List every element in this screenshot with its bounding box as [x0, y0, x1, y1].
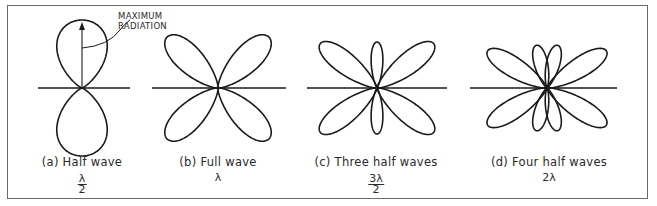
pattern-four-half-waves: [470, 45, 617, 131]
radiation-lobe: [165, 88, 218, 141]
radiation-lobe: [487, 88, 547, 128]
radiation-patterns-diagram: [0, 0, 657, 206]
radiation-lobe: [487, 48, 547, 88]
pattern-full-wave: [152, 35, 286, 142]
arrow-head-icon: [79, 22, 85, 30]
radiation-lobe: [377, 41, 435, 88]
fraction-denominator: 2: [372, 185, 379, 195]
wavelength-full-wave: λ: [215, 171, 222, 184]
radiation-lobe: [218, 35, 271, 88]
pattern-three-half-waves: [307, 41, 447, 134]
radiation-lobe: [371, 88, 383, 134]
radiation-lobe: [319, 41, 377, 88]
radiation-lobe: [165, 35, 218, 88]
radiation-lobe: [547, 48, 607, 88]
radiation-lobe: [371, 42, 383, 88]
radiation-lobe: [377, 88, 435, 135]
radiation-lobe: [319, 88, 377, 135]
pattern-half-wave: [38, 20, 130, 156]
radiation-lobe: [57, 88, 107, 156]
caption-half-wave: (a) Half wave: [42, 155, 123, 169]
caption-full-wave: (b) Full wave: [179, 155, 256, 169]
radiation-lobe: [218, 88, 271, 141]
fraction-denominator: 2: [78, 185, 85, 195]
annotation-line-1: MAXIMUM: [118, 11, 167, 21]
wavelength-four-half-waves: 2λ: [542, 171, 556, 184]
wavelength-half-wave: λ2: [78, 172, 87, 195]
annotation-line-2: RADIATION: [118, 21, 167, 31]
radiation-lobe: [547, 88, 607, 128]
wavelength-three-half-waves: 3λ2: [368, 172, 384, 195]
maximum-radiation-label: MAXIMUM RADIATION: [118, 11, 167, 31]
caption-three-half-waves: (c) Three half waves: [314, 155, 437, 169]
caption-four-half-waves: (d) Four half waves: [491, 155, 607, 169]
